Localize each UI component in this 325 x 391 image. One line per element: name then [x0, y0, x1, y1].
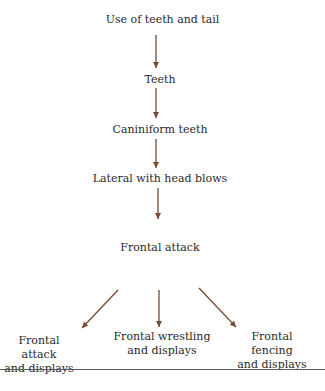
bottom-rule	[0, 369, 325, 370]
arrow-n5-n8	[199, 288, 236, 327]
arrow-n5-n6	[82, 290, 118, 328]
arrows-layer	[0, 0, 325, 391]
